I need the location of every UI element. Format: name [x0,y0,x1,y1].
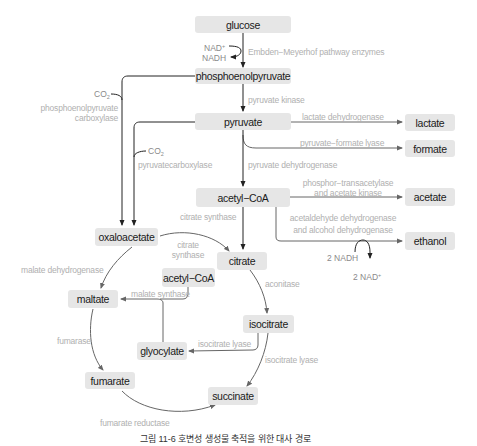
node-acetate: acetate [405,188,455,206]
enzyme-citrate-synthase-2: citrate synthase [168,240,208,260]
node-glyocylate: glyocylate [137,342,187,360]
arrow-oxaloacetate-maltate [101,247,132,288]
node-oxaloacetate: oxaloacetate [95,228,158,246]
enzyme-lactate-dehydrogenase: lactate dehydrogenase [302,112,384,122]
enzyme-malate-dehydrogenase: malate dehydrogenase [21,265,103,275]
node-pyruvate: pyruvate [195,113,291,130]
node-ethanol: ethanol [405,232,455,250]
enzyme-phosphotransacetylase: phosphor−transacetylase and acetate kina… [292,178,404,198]
enzyme-pyruvate-kinase: pyruvate kinase [248,95,305,105]
arrow-pyruvate-oxaloacetate [134,122,195,225]
enzyme-pyruvate-dehydrogenase: pyruvate dehydrogenase [248,160,337,170]
enzyme-aconitase: aconitase [265,279,300,289]
enzyme-isocitrate-lyase-2: isocitrate lyase [265,355,318,365]
enzyme-citrate-synthase: citrate synthase [180,212,236,222]
arrow-maltate-fumarate [90,309,103,370]
label-co2-pyc: CO2 [148,146,164,159]
enzyme-isocitrate-lyase-1: isocitrate lyase [198,339,251,349]
node-phosphoenolpyruvate: phosphoenolpyruvate [195,68,291,84]
arrow-glyocylate-maltate [121,299,163,342]
enzyme-fumarase: fumarase [57,336,91,346]
enzyme-acetaldehyde-dehydrogenase: acetaldehyde dehydrogenase and alcohol d… [282,213,404,235]
label-co2-pepc: CO2 [94,89,110,102]
arrow-fumarate-succinate [122,391,215,411]
label-nadh: NADH [202,53,226,63]
figure-caption: 그림 11-6 호변성 생성물 축적을 위한 대사 경로 [140,432,360,445]
enzyme-fumarate-reductase: fumarate reductase [100,418,170,428]
node-isocitrate: isocitrate [243,315,294,333]
label-2-nad-plus: 2 NAD+ [353,270,381,282]
enzyme-pep-carboxylase: phosphoenolpyruvate carboxylase [20,103,118,123]
enzyme-malate-synthase: malate synthase [131,289,190,299]
node-acetyl-coa-inner: acetyl−CoA [162,268,215,287]
node-glucose: glucose [195,16,291,33]
enzyme-pyruvate-carboxylase: pyruvatecarboxylase [138,160,212,170]
arrow-nad-nadh [229,46,241,57]
label-2-nadh: 2 NADH [327,253,358,263]
pathway-arrows [0,0,477,446]
node-fumarate: fumarate [85,372,135,389]
node-succinate: succinate [208,387,258,405]
enzyme-embden-meyerhof: Embden−Meyerhof pathway enzymes [248,47,384,57]
label-nad-plus: NAD+ [204,41,225,53]
node-lactate: lactate [405,114,455,131]
enzyme-pyruvate-formate-lyase: pyruvate−formate lyase [300,138,384,148]
node-citrate: citrate [217,252,267,270]
arrow-citrate-isocitrate [250,270,267,313]
node-acetyl-coa: acetyl−CoA [196,188,290,207]
node-formate: formate [405,140,455,157]
node-maltate: maltate [68,290,118,308]
